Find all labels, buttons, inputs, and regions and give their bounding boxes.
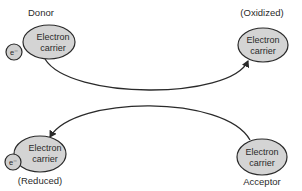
- arrow-donor-to-oxidized: [45, 59, 248, 90]
- carrier-text-line1: Electron: [246, 35, 279, 45]
- node-oxidized: (Oxidized) Electron carrier: [238, 7, 288, 62]
- oxidized-label: (Oxidized): [240, 7, 283, 18]
- reduced-label: (Reduced): [18, 175, 62, 186]
- electron-carrier-shape: [23, 25, 75, 59]
- carrier-text-line2: carrier: [250, 46, 276, 56]
- electron-transfer-diagram: Donor Electron carrier e⁻ (Oxidized) Ele…: [0, 0, 302, 191]
- carrier-text-line2: carrier: [249, 158, 275, 168]
- carrier-text-line2: carrier: [32, 154, 58, 164]
- donor-label: Donor: [28, 7, 54, 18]
- node-reduced: Electron carrier e⁻ (Reduced): [5, 136, 66, 186]
- electron-carrier-shape: [237, 139, 287, 175]
- carrier-text-line1: Electron: [28, 143, 61, 153]
- arrow-acceptor-to-reduced: [50, 106, 250, 140]
- node-acceptor: Electron carrier Acceptor: [237, 139, 287, 187]
- carrier-text-line1: Electron: [36, 32, 69, 42]
- electron-symbol: e⁻: [10, 48, 18, 57]
- electron-carrier-shape: [238, 28, 288, 62]
- carrier-text-line1: Electron: [245, 147, 278, 157]
- electron-symbol: e⁻: [9, 158, 17, 167]
- carrier-text-line2: carrier: [40, 43, 66, 53]
- node-donor: Donor Electron carrier e⁻: [6, 7, 75, 60]
- acceptor-label: Acceptor: [243, 176, 281, 187]
